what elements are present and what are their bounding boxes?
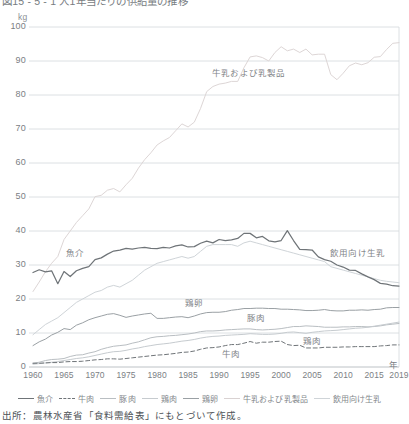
y-axis-tick-10: 10 <box>0 327 26 337</box>
series-line-魚介 <box>33 231 399 286</box>
x-axis-tick-1990: 1990 <box>209 370 228 380</box>
legend-swatch-icon <box>224 398 240 399</box>
annotation-beef: 牛肉 <box>222 347 240 359</box>
legend-item-豚肉[interactable]: 豚肉 <box>100 393 135 404</box>
y-axis-tick-80: 80 <box>0 89 26 99</box>
legend-swatch-icon <box>314 398 330 399</box>
annotation-eggs: 鶏卵 <box>185 296 203 308</box>
x-axis-tick-1985: 1985 <box>178 370 197 380</box>
x-axis-tick-2019: 2019 <box>389 370 408 380</box>
x-axis-tick-2000: 2000 <box>271 370 290 380</box>
legend-item-鶏卵[interactable]: 鶏卵 <box>183 393 218 404</box>
legend-label: 牛肉 <box>78 393 94 404</box>
legend-item-鶏肉[interactable]: 鶏肉 <box>142 393 177 404</box>
x-axis-tick-1960: 1960 <box>23 370 42 380</box>
x-axis-name: 年 <box>389 358 398 370</box>
legend-swatch-icon <box>142 398 158 399</box>
y-axis-tick-90: 90 <box>0 55 26 65</box>
x-axis-tick-2015: 2015 <box>365 370 384 380</box>
legend-item-飲用向け生乳[interactable]: 飲用向け生乳 <box>314 393 382 404</box>
annotation-seafood: 魚介 <box>66 246 84 258</box>
y-axis-tick-0: 0 <box>0 361 26 371</box>
legend-swatch-icon <box>183 398 199 399</box>
annotation-chicken: 鶏肉 <box>303 334 321 346</box>
x-axis-tick-1975: 1975 <box>116 370 135 380</box>
series-line-牛肉 <box>33 341 399 363</box>
x-axis-tick-2005: 2005 <box>302 370 321 380</box>
legend-swatch-icon <box>100 398 116 399</box>
x-axis-tick-1970: 1970 <box>85 370 104 380</box>
y-axis-tick-20: 20 <box>0 293 26 303</box>
series-line-鶏肉 <box>33 322 399 364</box>
y-axis-tick-30: 30 <box>0 259 26 269</box>
legend-item-魚介[interactable]: 魚介 <box>18 393 53 404</box>
legend-label: 鶏卵 <box>202 393 218 404</box>
legend-label: 魚介 <box>37 393 53 404</box>
y-axis-tick-100: 100 <box>0 21 26 31</box>
legend-label: 牛乳および乳製品 <box>243 393 308 404</box>
legend-label: 鶏肉 <box>161 393 177 404</box>
annotation-pork: 豚肉 <box>247 311 265 323</box>
annotation-milk-and-dairy: 牛乳および乳製品 <box>212 66 286 78</box>
y-axis-tick-70: 70 <box>0 123 26 133</box>
legend-label: 飲用向け生乳 <box>333 393 382 404</box>
x-axis-tick-2010: 2010 <box>334 370 353 380</box>
chart-legend: 魚介牛肉豚肉鶏肉鶏卵牛乳および乳製品飲用向け生乳 <box>18 392 400 405</box>
annotation-drinking-milk: 飲用向け生乳 <box>330 246 385 258</box>
x-axis-tick-1995: 1995 <box>240 370 259 380</box>
legend-swatch-icon <box>59 398 75 399</box>
y-axis-tick-60: 60 <box>0 157 26 167</box>
legend-item-牛乳および乳製品[interactable]: 牛乳および乳製品 <box>224 393 308 404</box>
x-axis-tick-1980: 1980 <box>147 370 166 380</box>
legend-label: 豚肉 <box>119 393 135 404</box>
source-note: 出所：農林水産省「食料需給表」にもとづいて作成。 <box>2 408 247 422</box>
legend-item-牛肉[interactable]: 牛肉 <box>59 393 94 404</box>
x-axis-tick-1965: 1965 <box>54 370 73 380</box>
y-axis-tick-50: 50 <box>0 191 26 201</box>
legend-swatch-icon <box>18 398 34 399</box>
y-axis-tick-40: 40 <box>0 225 26 235</box>
